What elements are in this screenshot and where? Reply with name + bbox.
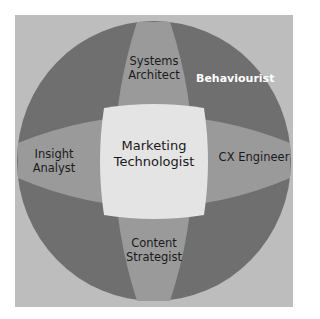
label-cx-engineer: CX Engineer [214, 151, 294, 165]
label-line: Architect [124, 69, 184, 83]
label-line: Behaviourist [196, 72, 270, 85]
label-line: Marketing [101, 138, 207, 154]
label-line: Technologist [101, 154, 207, 170]
label-behaviourist: Behaviourist [196, 72, 270, 85]
label-line: Insight [30, 148, 78, 162]
label-insight-analyst: Insight Analyst [30, 148, 78, 176]
label-line: Analyst [30, 162, 78, 176]
label-line: Strategist [122, 251, 186, 265]
label-line: Content [122, 237, 186, 251]
label-content-strategist: Content Strategist [122, 237, 186, 265]
label-marketing-technologist: Marketing Technologist [101, 138, 207, 169]
label-line: Systems [124, 55, 184, 69]
label-line: CX Engineer [214, 151, 294, 165]
label-systems-architect: Systems Architect [124, 55, 184, 83]
